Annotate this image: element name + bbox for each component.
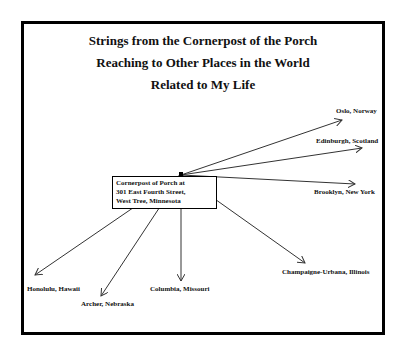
label-columbia: Columbia, Missouri <box>150 285 210 293</box>
origin-line-3: West Tree, Minnesota <box>116 197 213 206</box>
label-edinburgh: Edinburgh, Scotland <box>316 137 378 145</box>
string-edinburgh <box>181 148 362 175</box>
label-archer: Archer, Nebraska <box>81 300 134 308</box>
origin-callout: Cornerpost of Porch at 301 East Fourth S… <box>112 176 217 209</box>
label-champaigne: Champaigne-Urbana, Illinois <box>282 268 370 276</box>
label-oslo: Oslo, Norway <box>336 107 377 115</box>
origin-line-2: 301 East Fourth Street, <box>116 188 213 197</box>
origin-line-1: Cornerpost of Porch at <box>116 179 213 188</box>
label-honolulu: Honolulu, Hawaii <box>27 285 80 293</box>
label-brooklyn: Brooklyn, New York <box>314 188 375 196</box>
string-oslo <box>181 120 342 175</box>
